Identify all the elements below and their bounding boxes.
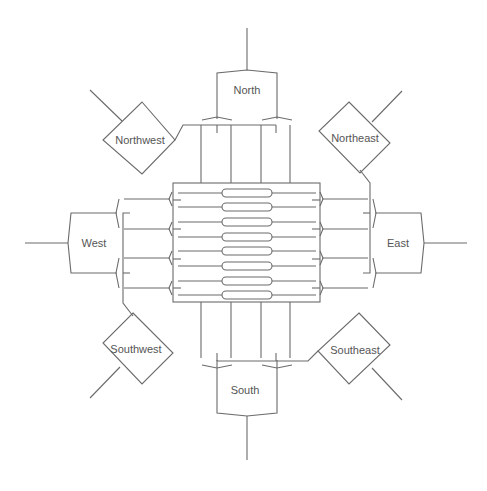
node-northeast[interactable]: Northeast: [319, 91, 402, 173]
node-west[interactable]: West: [25, 199, 119, 288]
core-slots: [178, 189, 316, 299]
east-links: [320, 170, 370, 295]
north-label: North: [234, 84, 261, 96]
south-links: [201, 302, 318, 361]
network-diagram: North South West: [0, 0, 487, 491]
east-label: East: [387, 237, 409, 249]
southeast-label: Southeast: [330, 344, 380, 356]
core-frame: [173, 183, 320, 302]
northeast-label: Northeast: [331, 132, 379, 144]
core-port-stubs: [173, 200, 320, 288]
north-links: [175, 125, 290, 183]
node-north[interactable]: North: [202, 28, 292, 120]
west-links: [123, 192, 172, 316]
node-southeast[interactable]: Southeast: [318, 313, 402, 400]
south-label: South: [231, 384, 260, 396]
northwest-label: Northwest: [115, 134, 165, 146]
node-northwest[interactable]: Northwest: [90, 90, 175, 174]
west-label: West: [82, 237, 107, 249]
southwest-label: Southwest: [110, 343, 161, 355]
node-southwest[interactable]: Southwest: [90, 313, 173, 398]
node-east[interactable]: East: [373, 199, 467, 288]
node-south[interactable]: South: [202, 360, 292, 460]
core-switch: [173, 183, 320, 302]
